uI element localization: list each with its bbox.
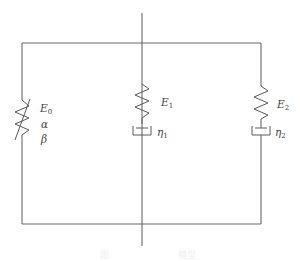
label-E1: E1	[161, 97, 173, 110]
caption-right: 模型	[178, 248, 196, 261]
label-eta2: η2	[275, 127, 286, 140]
spring-icon	[254, 86, 268, 119]
label-beta: β	[41, 134, 47, 145]
label-E0: E0	[40, 103, 52, 116]
label-eta1: η1	[157, 127, 168, 140]
nonlinear-slash	[15, 99, 30, 140]
dashpot-icon	[252, 124, 270, 135]
nonlinear-spring-icon	[15, 100, 29, 135]
branch-0-nonlinear-spring	[15, 43, 30, 224]
branch-2-maxwell-element	[252, 43, 270, 224]
label-alpha: α	[41, 119, 48, 130]
caption-left: 图	[100, 248, 109, 261]
label-E2: E2	[277, 99, 289, 112]
